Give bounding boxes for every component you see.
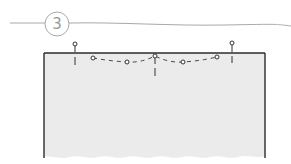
stitch-point-icon	[181, 60, 185, 64]
step-number: 3	[45, 13, 69, 35]
instruction-diagram: 3	[0, 0, 291, 164]
stitch-point-icon	[91, 56, 95, 60]
diagram-canvas	[0, 0, 291, 164]
stitch-point-icon	[125, 60, 129, 64]
stitch-point-icon	[215, 55, 219, 59]
